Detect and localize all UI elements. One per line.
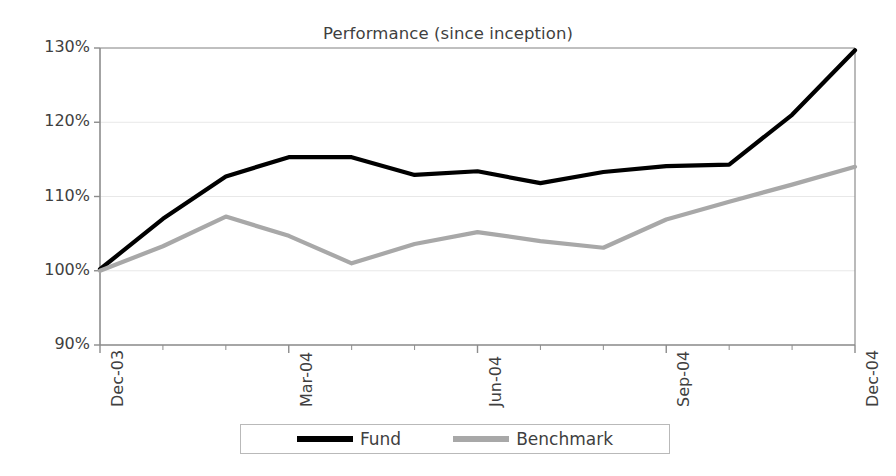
y-tick-label: 130% bbox=[14, 37, 90, 56]
x-tick-label: Sep-04 bbox=[674, 351, 693, 407]
y-tick-label: 110% bbox=[14, 186, 90, 205]
legend-swatch-benchmark-icon bbox=[453, 436, 509, 442]
y-tick-label: 90% bbox=[14, 334, 90, 353]
legend-item-benchmark: Benchmark bbox=[453, 429, 613, 449]
legend-label-fund: Fund bbox=[360, 429, 401, 449]
x-tick-label: Jun-04 bbox=[486, 356, 505, 407]
plot-area bbox=[0, 0, 896, 476]
legend-item-fund: Fund bbox=[297, 429, 401, 449]
chart-legend: Fund Benchmark bbox=[240, 424, 670, 454]
series-lines bbox=[100, 50, 855, 271]
performance-chart: Performance (since inception) 90%100%110… bbox=[0, 0, 896, 476]
x-tick-label: Dec-04 bbox=[863, 350, 882, 407]
x-tick-label: Dec-03 bbox=[108, 350, 127, 407]
y-tick-label: 100% bbox=[14, 260, 90, 279]
y-tick-label: 120% bbox=[14, 111, 90, 130]
x-tick-label: Mar-04 bbox=[297, 352, 316, 407]
legend-label-benchmark: Benchmark bbox=[516, 429, 613, 449]
legend-swatch-fund-icon bbox=[297, 436, 353, 442]
